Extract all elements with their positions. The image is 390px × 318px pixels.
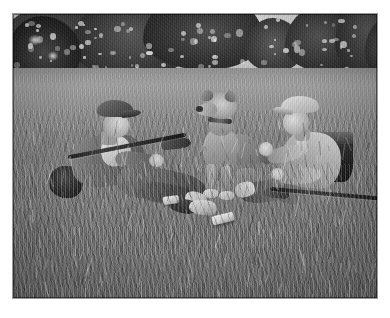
boy-right-hand-raised: [259, 142, 273, 156]
grass-blade: [75, 245, 76, 256]
grass-blade: [207, 256, 208, 260]
canopy-highlight: [131, 64, 133, 67]
grass-blade: [250, 155, 251, 162]
grass-blade: [25, 130, 27, 141]
canopy-highlight: [261, 60, 267, 65]
canopy-highlight: [240, 59, 245, 65]
photograph-frame: [13, 14, 377, 298]
canopy-highlight: [340, 41, 346, 48]
grass-blade: [18, 288, 20, 298]
canopy-highlight: [83, 56, 86, 58]
grass-blade: [290, 231, 291, 250]
grass-blade: [349, 284, 350, 298]
grass-blade: [316, 155, 318, 163]
canopy-highlight: [37, 36, 43, 43]
grass-blade: [311, 273, 312, 278]
page-root: Vintage black and white photo of two boy…: [0, 0, 390, 318]
canopy-highlight: [121, 22, 125, 25]
grass-blade: [218, 181, 219, 191]
grass-blade: [74, 227, 75, 235]
grass-blade: [67, 142, 68, 147]
canopy-highlight: [224, 33, 231, 38]
grass-blade: [130, 231, 131, 241]
canopy-highlight: [126, 29, 130, 33]
figure-boy-left: [49, 100, 209, 218]
grass-blade: [339, 219, 340, 225]
canopy-highlight: [85, 40, 90, 45]
grass-blade: [237, 179, 239, 185]
canopy-highlight: [332, 23, 335, 27]
canopy-highlight: [181, 38, 185, 41]
grass-blade: [141, 281, 142, 298]
canopy-highlight: [194, 39, 198, 44]
canopy-highlight: [94, 28, 96, 30]
grass-blade: [376, 169, 377, 174]
canopy-highlight: [55, 46, 60, 51]
canopy-highlight: [64, 49, 70, 56]
flat-cap-brim-right: [273, 106, 294, 115]
figure-boy-right: [253, 96, 377, 214]
canopy-highlight: [210, 29, 215, 34]
canopy-highlight: [299, 49, 305, 56]
canopy-highlight: [146, 51, 152, 56]
grass-blade: [317, 277, 318, 283]
canopy-highlight: [197, 28, 203, 34]
grass-blade: [219, 292, 220, 298]
grass-blade: [38, 137, 40, 144]
canopy-highlight: [36, 24, 42, 28]
grass-blade: [104, 240, 106, 248]
canopy-highlight: [114, 26, 120, 31]
grass-blade: [139, 277, 140, 285]
canopy-highlight: [322, 39, 328, 42]
flat-cap-brim-left: [121, 109, 142, 118]
canopy-highlight: [264, 25, 268, 29]
canopy-highlight: [36, 29, 38, 32]
grass-blade: [191, 239, 192, 251]
grass-blade: [159, 270, 161, 277]
canopy-highlight: [196, 23, 201, 28]
canopy-highlight: [180, 55, 184, 58]
grass-blade: [168, 265, 169, 273]
canopy-highlight: [98, 53, 102, 55]
canopy-highlight: [350, 55, 353, 57]
canopy-highlight: [236, 29, 243, 36]
grass-blade: [93, 156, 94, 161]
grass-blade: [329, 288, 330, 298]
grass-blade: [94, 170, 95, 178]
canopy-highlight: [333, 38, 339, 42]
canopy-highlight: [110, 51, 116, 55]
grass-blade: [172, 241, 174, 260]
canopy-highlight: [292, 42, 297, 46]
grass-blade: [348, 261, 350, 272]
canopy-highlight: [140, 53, 145, 58]
grass-blade: [329, 257, 331, 263]
canopy-highlight: [276, 18, 281, 21]
grass-blade: [31, 210, 32, 222]
dog-nose: [196, 106, 203, 112]
canopy-highlight: [39, 56, 43, 59]
canopy-highlight: [161, 63, 166, 67]
canopy-highlight: [75, 26, 77, 29]
canopy-highlight: [50, 60, 52, 62]
canopy-highlight: [324, 21, 327, 24]
canopy-highlight: [320, 64, 323, 66]
grass-blade: [312, 294, 313, 298]
photograph-image: [13, 14, 377, 298]
canopy-highlight: [70, 45, 77, 49]
canopy-highlight: [14, 62, 20, 67]
grass-blade: [309, 252, 310, 257]
canopy-highlight: [212, 55, 218, 59]
grass-blade: [335, 226, 336, 236]
